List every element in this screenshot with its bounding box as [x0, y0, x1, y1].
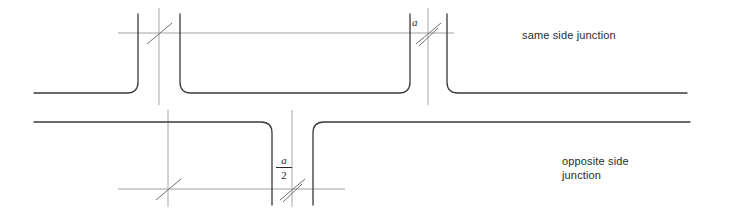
dimension-fraction-denominator: 2: [276, 169, 292, 181]
label-opposite-side-junction: opposite sidejunction: [562, 155, 629, 182]
top-edge-west-to-junction1: [34, 14, 138, 93]
dimension-fraction-bar: [276, 167, 292, 168]
dimension-label-a: a: [412, 17, 418, 28]
label-same-side-junction: same side junction: [522, 29, 616, 43]
top-construction-lines: [118, 8, 454, 105]
top-edge-junction2-to-east: [447, 14, 687, 93]
bottom-edge-junction-to-east: [313, 122, 690, 205]
top-road-edges: [34, 14, 687, 93]
bottom-construction-lines: [118, 110, 345, 207]
top-edge-junction1-to-junction2: [180, 14, 410, 93]
dimension-label-a-over-2: a 2: [276, 154, 292, 181]
top-panel-same-side-junction: [34, 8, 687, 105]
bottom-edge-west-to-junction: [34, 122, 272, 205]
label-opposite-side-line1: opposite side: [562, 155, 629, 167]
dimension-fraction-numerator: a: [276, 154, 292, 166]
diagram-canvas: [0, 0, 731, 217]
junction-spacing-diagram: same side junction opposite sidejunction…: [0, 0, 731, 217]
label-opposite-side-line2: junction: [562, 169, 601, 181]
